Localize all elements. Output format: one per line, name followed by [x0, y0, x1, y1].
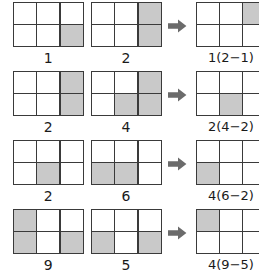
diagram-row: 2 4 2(4−2) — [0, 71, 259, 133]
grid-cell-shaded — [139, 94, 161, 115]
result-label: 1(2−1) — [208, 51, 254, 64]
grid-cell-empty — [220, 25, 242, 46]
grid-cell-empty — [37, 210, 59, 231]
operand-2-label: 2 — [121, 51, 130, 65]
grid-cell-empty — [243, 94, 259, 115]
grid-cell-empty — [197, 232, 219, 253]
operand-1-panel: 2 — [13, 71, 84, 134]
grid-cell-empty — [14, 25, 36, 46]
grid-cell-empty — [61, 141, 83, 162]
grid-cell-shaded — [14, 210, 36, 231]
grid-cell-shaded — [220, 94, 242, 115]
result-panel: 2(4−2) — [196, 71, 259, 133]
grid-cell-empty — [37, 3, 59, 24]
grid-cell-empty — [92, 94, 114, 115]
result-grid — [196, 2, 259, 47]
grid-cell-empty — [14, 141, 36, 162]
grid-cell-shaded — [139, 72, 161, 93]
grid-cell-shaded — [115, 94, 137, 115]
grid-cell-empty — [139, 141, 161, 162]
operand-2-panel: 2 — [91, 2, 162, 65]
diagram-row: 1 2 1(2−1) — [0, 2, 259, 64]
grid-cell-shaded — [139, 25, 161, 46]
grid-cell-empty — [115, 25, 137, 46]
grid-cell-empty — [92, 210, 114, 231]
grid-cell-shaded — [197, 210, 219, 231]
grid-cell-empty — [14, 94, 36, 115]
operand-2-panel: 5 — [91, 209, 162, 271]
grid-cell-empty — [243, 163, 259, 184]
operand-2-grid — [91, 140, 162, 185]
result-grid — [196, 140, 259, 185]
operand-2-grid — [91, 2, 162, 47]
grid-cell-empty — [220, 141, 242, 162]
grid-cell-empty — [220, 232, 242, 253]
grid-cell-empty — [115, 3, 137, 24]
grid-cell-empty — [220, 72, 242, 93]
operand-1-grid — [13, 71, 84, 116]
operand-1-grid — [13, 209, 84, 254]
grid-cell-shaded — [139, 3, 161, 24]
grid-cell-empty — [37, 72, 59, 93]
grid-cell-empty — [197, 3, 219, 24]
grid-cell-empty — [243, 232, 259, 253]
operand-2-label: 6 — [121, 189, 130, 203]
grid-cell-shaded — [197, 163, 219, 184]
grid-cell-empty — [61, 3, 83, 24]
operand-1-label: 1 — [44, 51, 53, 65]
grid-cell-empty — [14, 3, 36, 24]
grid-cell-empty — [243, 210, 259, 231]
grid-cell-empty — [14, 163, 36, 184]
grid-cell-empty — [14, 72, 36, 93]
grid-cell-empty — [220, 3, 242, 24]
grid-cell-shaded — [92, 232, 114, 253]
grid-cell-empty — [220, 210, 242, 231]
grid-cell-empty — [37, 94, 59, 115]
grid-cell-shaded — [61, 25, 83, 46]
diagram-row: 9 5 4(9−5) — [0, 209, 259, 271]
grid-cell-empty — [139, 163, 161, 184]
operand-2-label: 5 — [121, 258, 130, 271]
diagram-row: 2 6 4(6−2) — [0, 140, 259, 202]
result-panel: 1(2−1) — [196, 2, 259, 64]
grid-cell-shaded — [61, 94, 83, 115]
grid-cell-shaded — [139, 232, 161, 253]
operand-2-panel: 6 — [91, 140, 162, 203]
grid-cell-empty — [37, 141, 59, 162]
grid-cell-shaded — [14, 232, 36, 253]
operand-2-grid — [91, 209, 162, 254]
right-arrow-icon — [168, 209, 187, 240]
grid-cell-empty — [115, 141, 137, 162]
grid-cell-empty — [197, 72, 219, 93]
grid-cell-empty — [61, 163, 83, 184]
grid-cell-empty — [220, 163, 242, 184]
result-panel: 4(9−5) — [196, 209, 259, 271]
operand-1-label: 9 — [44, 258, 53, 271]
result-label: 2(4−2) — [208, 120, 254, 133]
operand-2-label: 4 — [121, 120, 130, 134]
grid-cell-empty — [243, 141, 259, 162]
grid-cell-shaded — [115, 163, 137, 184]
operand-1-grid — [13, 140, 84, 185]
operand-1-panel: 9 — [13, 209, 84, 271]
grid-cell-empty — [61, 210, 83, 231]
result-grid — [196, 71, 259, 116]
operand-2-grid — [91, 71, 162, 116]
grid-cell-empty — [115, 210, 137, 231]
result-grid — [196, 209, 259, 254]
grid-cell-empty — [92, 25, 114, 46]
grid-cell-empty — [37, 25, 59, 46]
operand-1-label: 2 — [44, 189, 53, 203]
grid-cell-empty — [92, 141, 114, 162]
grid-cell-empty — [197, 94, 219, 115]
grid-cell-shaded — [61, 232, 83, 253]
operand-1-panel: 1 — [13, 2, 84, 65]
grid-cell-empty — [92, 72, 114, 93]
right-arrow-icon — [168, 2, 187, 33]
operand-2-panel: 4 — [91, 71, 162, 134]
subtraction-diagram: 1 2 1(2−1) 2 4 — [0, 0, 259, 271]
grid-cell-empty — [92, 3, 114, 24]
grid-cell-empty — [115, 72, 137, 93]
grid-cell-empty — [197, 141, 219, 162]
right-arrow-icon — [168, 71, 187, 102]
